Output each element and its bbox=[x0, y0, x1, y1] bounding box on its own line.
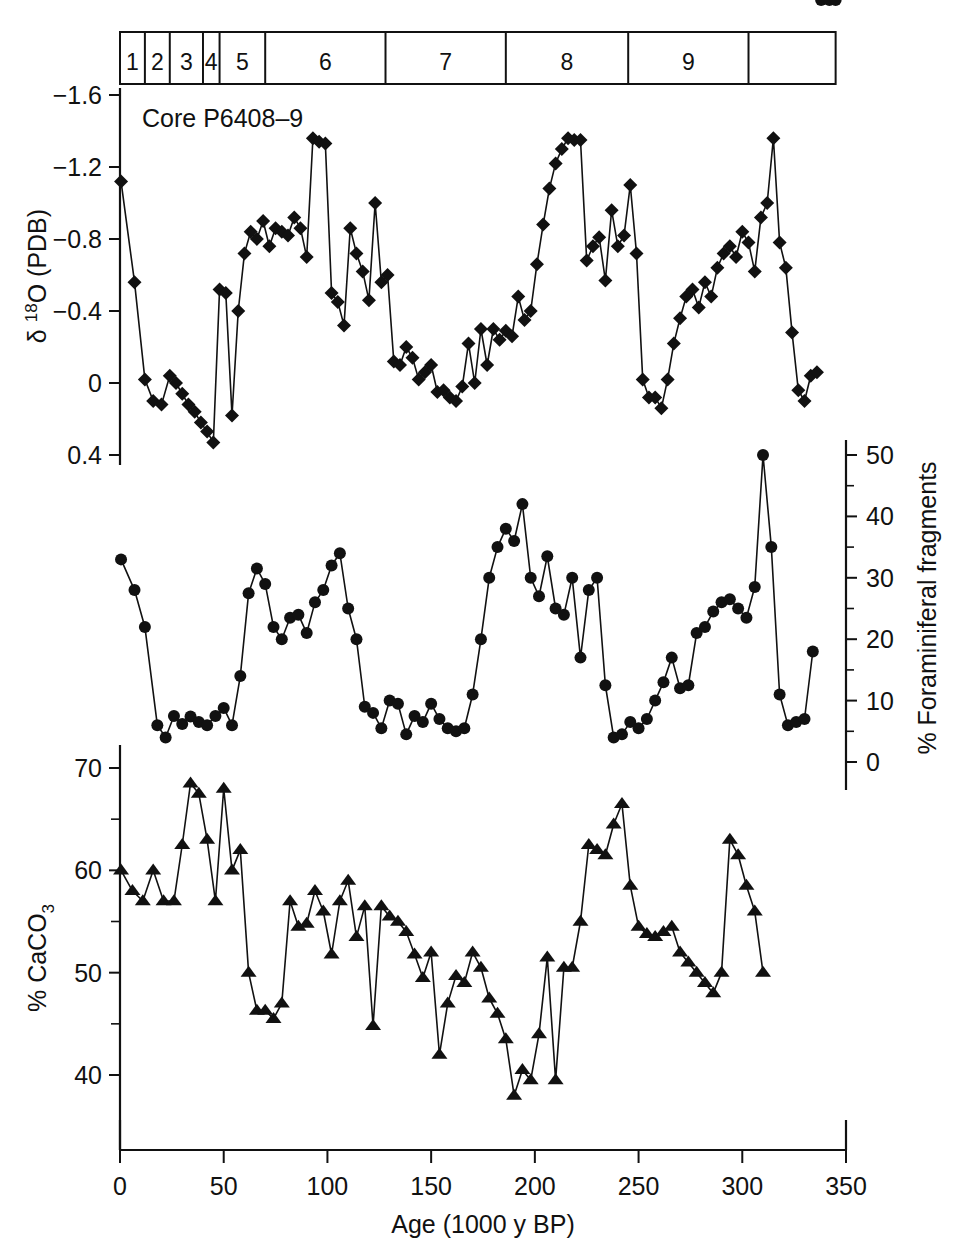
data-point bbox=[340, 874, 356, 885]
y-tick-label: 10 bbox=[866, 687, 894, 715]
data-point bbox=[539, 950, 555, 961]
y-tick-label: 40 bbox=[74, 1061, 102, 1089]
caco3-series-line bbox=[121, 783, 763, 1095]
data-point bbox=[407, 947, 423, 958]
data-point bbox=[629, 246, 643, 260]
data-point bbox=[342, 603, 354, 615]
stage-label-9: 9 bbox=[682, 49, 695, 75]
y-tick-label: 0.4 bbox=[67, 441, 102, 469]
delta-rest: O (PDB) bbox=[23, 209, 51, 303]
data-point bbox=[748, 264, 762, 278]
svg-text:δ 18O (PDB): δ 18O (PDB) bbox=[22, 209, 51, 343]
data-point bbox=[566, 572, 578, 584]
data-point bbox=[216, 782, 232, 793]
stage-label-6: 6 bbox=[319, 49, 332, 75]
stage-label-1: 1 bbox=[126, 49, 139, 75]
data-point bbox=[183, 777, 199, 788]
x-tick-label: 100 bbox=[307, 1172, 349, 1200]
data-point bbox=[362, 293, 376, 307]
data-point bbox=[742, 236, 756, 250]
data-point bbox=[259, 578, 271, 590]
data-point bbox=[636, 372, 650, 386]
data-point bbox=[365, 1019, 381, 1030]
x-axis-tick-labels: 050100150200250300350 bbox=[113, 1172, 867, 1200]
data-point bbox=[431, 1048, 447, 1059]
x-tick-label: 50 bbox=[210, 1172, 238, 1200]
data-point bbox=[113, 864, 129, 875]
data-point bbox=[542, 182, 556, 196]
data-point bbox=[334, 547, 346, 559]
data-point bbox=[175, 387, 189, 401]
data-point bbox=[667, 336, 681, 350]
data-point bbox=[598, 273, 612, 287]
data-point bbox=[661, 372, 675, 386]
data-point bbox=[735, 225, 749, 239]
data-point bbox=[511, 290, 525, 304]
caco3-axis-title: % CaCO3 bbox=[23, 904, 58, 1012]
data-point bbox=[237, 246, 251, 260]
data-point bbox=[465, 945, 481, 956]
y-tick-label: 20 bbox=[866, 625, 894, 653]
data-point bbox=[754, 210, 768, 224]
stage-label-3: 3 bbox=[180, 49, 193, 75]
data-point bbox=[218, 702, 230, 714]
data-point bbox=[375, 722, 387, 734]
data-point bbox=[357, 899, 373, 910]
data-point bbox=[468, 376, 482, 390]
data-point bbox=[606, 817, 622, 828]
data-point bbox=[199, 833, 215, 844]
data-point bbox=[309, 596, 321, 608]
data-point bbox=[400, 728, 412, 740]
data-point bbox=[747, 904, 763, 915]
data-point bbox=[549, 156, 563, 170]
x-tick-label: 350 bbox=[825, 1172, 867, 1200]
data-point bbox=[461, 336, 475, 350]
y-tick-label: −1.2 bbox=[53, 153, 102, 181]
data-point bbox=[206, 435, 220, 449]
data-point bbox=[574, 652, 586, 664]
data-point bbox=[287, 210, 301, 224]
y-tick-label: 40 bbox=[866, 502, 894, 530]
x-axis-ticks bbox=[120, 1150, 846, 1163]
data-point bbox=[315, 904, 331, 915]
d18o-markers bbox=[114, 131, 824, 449]
core-label: Core P6408–9 bbox=[142, 104, 303, 132]
data-point bbox=[572, 915, 588, 926]
data-point bbox=[356, 264, 370, 278]
data-point bbox=[474, 322, 488, 336]
data-point bbox=[398, 925, 414, 936]
mid-panel-ticks bbox=[846, 455, 857, 762]
data-point bbox=[641, 713, 653, 725]
data-point bbox=[231, 304, 245, 318]
stage-label-4: 4 bbox=[205, 49, 218, 75]
data-point bbox=[692, 300, 706, 314]
data-point bbox=[129, 584, 141, 596]
data-point bbox=[415, 971, 431, 982]
data-point bbox=[473, 961, 489, 972]
data-point bbox=[423, 945, 439, 956]
data-point bbox=[525, 572, 537, 584]
data-point bbox=[599, 679, 611, 691]
data-point bbox=[654, 401, 668, 415]
data-point bbox=[317, 584, 329, 596]
data-point bbox=[710, 261, 724, 275]
data-point bbox=[689, 966, 705, 977]
data-point bbox=[417, 716, 429, 728]
panel-caco3: 40506070 bbox=[74, 745, 771, 1150]
bot-panel-tick-labels: 40506070 bbox=[74, 754, 102, 1089]
data-point bbox=[475, 633, 487, 645]
data-point bbox=[191, 787, 207, 798]
data-point bbox=[307, 884, 323, 895]
data-point bbox=[458, 722, 470, 734]
data-point bbox=[773, 236, 787, 250]
data-point bbox=[483, 572, 495, 584]
caco3-markers bbox=[113, 777, 771, 1100]
y-tick-label: −1.6 bbox=[53, 81, 102, 109]
data-point bbox=[139, 621, 151, 633]
data-point bbox=[301, 627, 313, 639]
y-tick-label: 0 bbox=[88, 369, 102, 397]
data-point bbox=[262, 239, 276, 253]
data-point bbox=[500, 523, 512, 535]
data-point bbox=[774, 688, 786, 700]
data-point bbox=[617, 228, 631, 242]
